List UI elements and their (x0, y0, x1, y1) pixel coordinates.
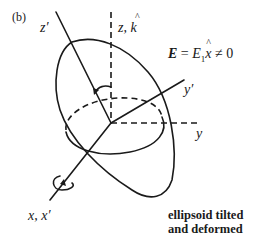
x-axis (50, 123, 111, 200)
y-prime-axis (111, 80, 184, 123)
equator-back (66, 98, 162, 130)
z-prime-label: z′ (40, 20, 49, 36)
y-prime-label: y′ (184, 82, 193, 98)
equation-lhs: E (168, 46, 177, 61)
figure-caption: ellipsoid tilted and deformed (168, 208, 243, 236)
equation-xhat: x (205, 46, 211, 61)
caption-line-2: and deformed (168, 222, 243, 236)
caption-line-1: ellipsoid tilted (168, 208, 243, 222)
equation-e1: E (192, 46, 201, 61)
x-xprime-label: x, x′ (28, 208, 51, 224)
x-hat-caret: ^ (206, 37, 211, 48)
equation-equals: = (177, 46, 192, 61)
diagram-canvas (0, 0, 256, 240)
ellipsoid-diagram: (b) z′ z, k ^ E = E1x^ ≠ 0 y′ y x, x′ el… (0, 0, 256, 240)
z-k-text: z, k (118, 20, 137, 35)
y-label: y (196, 126, 202, 142)
ellipsoid-outline (56, 39, 174, 196)
panel-label: (b) (12, 10, 26, 25)
k-hat-caret: ^ (135, 11, 140, 22)
field-equation: E = E1x^ ≠ 0 (168, 46, 233, 64)
z-k-label: z, k ^ (118, 20, 137, 36)
equation-rhs: ≠ 0 (212, 46, 234, 61)
